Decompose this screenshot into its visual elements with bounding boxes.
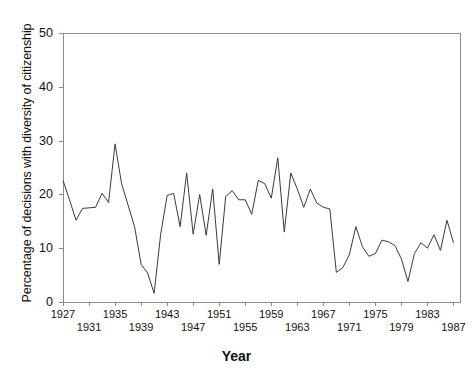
y-tick-label: 40 [27,81,53,93]
x-tick-label-upper: 1927 [43,308,83,320]
x-tick-label-lower: 1963 [277,321,317,333]
axis-ticks [59,34,454,307]
x-tick-label-lower: 1947 [173,321,213,333]
x-tick-label-lower: 1971 [329,321,369,333]
y-tick-label: 0 [27,296,53,308]
x-tick-label-upper: 1943 [147,308,187,320]
x-tick-label-upper: 1959 [251,308,291,320]
x-tick-label-lower: 1939 [121,321,161,333]
plot-frame [63,33,460,302]
y-tick-label: 50 [27,27,53,39]
plot-border [63,33,460,302]
x-tick-label-upper: 1975 [355,308,395,320]
x-tick-label-lower: 1931 [69,321,109,333]
y-tick-label: 20 [27,188,53,200]
y-tick-label: 30 [27,135,53,147]
y-tick-label: 10 [27,242,53,254]
x-tick-label-upper: 1967 [303,308,343,320]
x-tick-label-lower: 1979 [381,321,421,333]
x-tick-label-upper: 1951 [199,308,239,320]
series-polyline [63,144,453,294]
x-tick-label-lower: 1955 [225,321,265,333]
x-tick-label-upper: 1935 [95,308,135,320]
x-tick-label-upper: 1983 [407,308,447,320]
x-tick-label-lower: 1987 [433,321,473,333]
chart-figure: Percentage of decisions with diversity o… [0,0,473,381]
data-series-line [63,144,453,294]
